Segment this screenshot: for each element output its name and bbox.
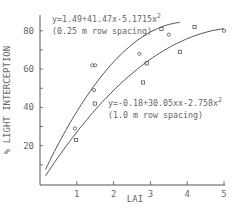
square-marker <box>93 102 96 105</box>
y-tick-label: 20 <box>23 141 34 151</box>
lower-spacing-label: (1.0 m row spacing) <box>108 110 203 120</box>
x-tick-label: 2 <box>111 189 116 199</box>
circle-marker <box>167 33 170 36</box>
square-marker <box>74 138 77 141</box>
square-marker <box>141 81 144 84</box>
x-tick-label: 1 <box>74 189 79 199</box>
x-axis-title: LAI <box>127 194 143 204</box>
upper-equation: y=1.49+41.47x-5.1715x2 <box>52 12 161 24</box>
circle-marker <box>222 29 225 32</box>
light-interception-chart: 1234520406080 LAI % LIGHT INTERCEPTION y… <box>0 0 237 211</box>
x-tick-label: 4 <box>184 189 189 199</box>
square-marker <box>193 25 196 28</box>
x-tick-label: 5 <box>221 189 226 199</box>
circle-marker <box>73 127 76 130</box>
square-marker <box>178 50 181 53</box>
y-axis-title: % LIGHT INTERCEPTION <box>2 46 12 154</box>
upper-spacing-label: (0.25 m row spacing) <box>52 26 152 36</box>
y-tick-label: 40 <box>23 102 34 112</box>
circle-marker <box>138 52 141 55</box>
x-tick-label: 3 <box>148 189 153 199</box>
circle-marker <box>92 89 95 92</box>
y-tick-label: 60 <box>23 64 34 74</box>
y-tick-label: 80 <box>23 26 34 36</box>
lower-equation: y=-0.18+30.05xx-2.758x2 <box>108 96 222 108</box>
